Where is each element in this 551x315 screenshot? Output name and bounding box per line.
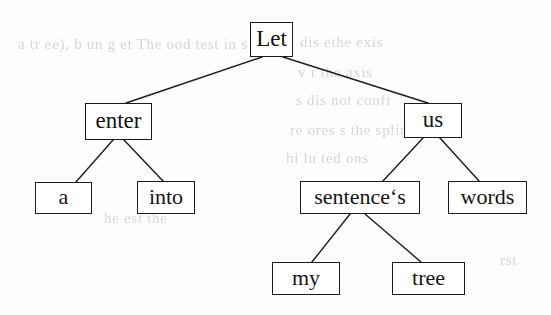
- tree-node-label: into: [149, 186, 183, 210]
- tree-node-us[interactable]: us: [404, 103, 462, 138]
- tree-node-words[interactable]: words: [448, 181, 527, 214]
- tree-edge: [76, 140, 113, 182]
- binary-tree-diagram: a tr ee), b un g et The ood test in sdis…: [0, 0, 551, 315]
- tree-node-label: Let: [256, 27, 287, 52]
- tree-node-label: enter: [96, 109, 142, 134]
- tree-node-label: us: [423, 108, 443, 133]
- tree-node-label: tree: [412, 267, 445, 291]
- tree-edge: [365, 214, 421, 262]
- tree-node-enter[interactable]: enter: [85, 103, 152, 140]
- ghost-text-line: s dis not confi: [296, 92, 391, 109]
- ghost-text-line: v r the axis: [298, 64, 373, 81]
- tree-node-my[interactable]: my: [272, 262, 340, 295]
- tree-edge: [312, 214, 350, 262]
- tree-node-sentences[interactable]: sentence‘s: [300, 181, 420, 214]
- tree-node-label: my: [292, 267, 320, 291]
- tree-edge: [124, 140, 163, 181]
- tree-edge: [126, 57, 262, 103]
- ghost-text-line: hi lu ted ons: [286, 150, 369, 167]
- tree-node-into[interactable]: into: [137, 181, 195, 214]
- tree-edge: [383, 138, 423, 181]
- ghost-text-line: rst: [500, 252, 517, 269]
- tree-node-label: sentence‘s: [314, 186, 406, 210]
- tree-node-label: a: [59, 186, 69, 210]
- tree-node-label: words: [461, 186, 515, 210]
- tree-edge: [440, 138, 479, 181]
- tree-node-a[interactable]: a: [35, 182, 92, 214]
- tree-node-let[interactable]: Let: [250, 22, 293, 57]
- ghost-text-line: a tr ee), b un g et The ood test in s: [18, 36, 248, 53]
- tree-node-tree[interactable]: tree: [392, 262, 465, 295]
- tree-edge: [283, 57, 428, 103]
- ghost-text-line: dis ethe exis: [300, 34, 383, 51]
